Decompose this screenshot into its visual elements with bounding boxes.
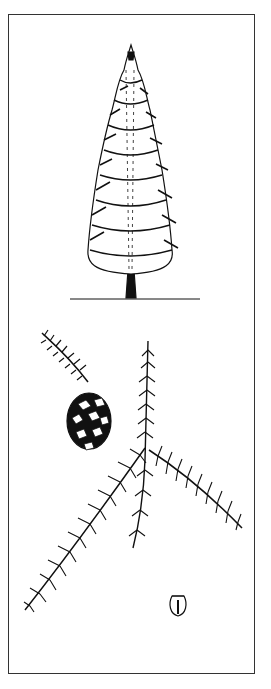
- botanical-illustration: [0, 0, 271, 689]
- tree-icon: [70, 45, 200, 299]
- cone-branch-icon: [41, 330, 111, 450]
- seed-icon: [170, 596, 186, 616]
- foliage-spray-icon: [24, 341, 242, 612]
